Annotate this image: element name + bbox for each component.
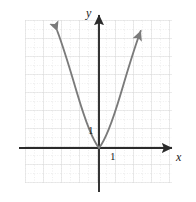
y-axis-label: y — [86, 7, 91, 19]
x-axis-label: x — [176, 151, 181, 163]
graph-canvas — [0, 0, 196, 202]
y-axis-tick-label-1: 1 — [88, 125, 94, 136]
graph-figure: y x 1 1 — [0, 0, 196, 202]
x-axis-tick-label-1: 1 — [110, 151, 116, 162]
